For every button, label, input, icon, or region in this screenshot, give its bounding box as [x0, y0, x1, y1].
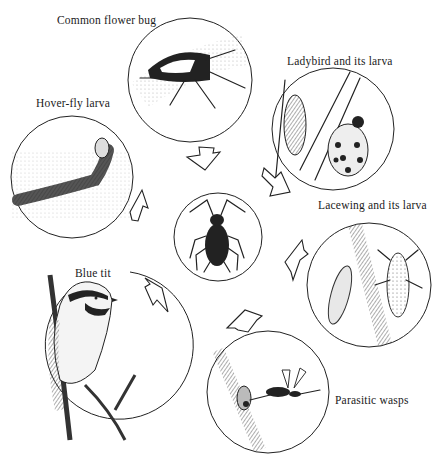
arrow-from-wasps — [227, 310, 262, 332]
label-hoverfly: Hover-fly larva — [36, 97, 110, 109]
blue-tit-illustration — [45, 272, 193, 440]
arrow-from-lacewing — [285, 240, 308, 280]
hoverfly-illustration — [11, 116, 133, 238]
ladybird-illustration — [272, 68, 394, 190]
flower-bug-illustration — [128, 18, 252, 142]
arrow-from-flower-bug — [187, 147, 220, 170]
arrow-from-blue-tit — [145, 278, 168, 312]
label-blue-tit: Blue tit — [75, 267, 111, 279]
lacewing-illustration — [307, 223, 431, 347]
label-wasps: Parasitic wasps — [335, 394, 409, 406]
label-flower-bug: Common flower bug — [57, 14, 156, 26]
label-ladybird: Ladybird and its larva — [287, 55, 393, 67]
label-lacewing: Lacewing and its larva — [318, 199, 427, 211]
wasps-illustration — [207, 331, 329, 453]
arrow-from-hoverfly — [130, 190, 148, 221]
aphid-illustration — [174, 193, 262, 281]
